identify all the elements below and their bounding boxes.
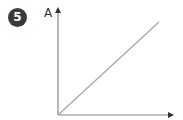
proportional-line — [58, 22, 159, 115]
x-axis-arrow-icon — [168, 112, 174, 118]
y-axis-arrow-icon — [55, 7, 61, 13]
graph — [0, 0, 183, 120]
